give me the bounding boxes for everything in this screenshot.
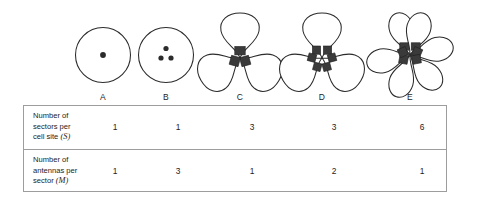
pattern-b-omni-circle (139, 28, 194, 83)
row-header-line-1: Number of (33, 111, 68, 120)
antenna-dot-b-1 (163, 46, 168, 51)
table-row: Number of antennas per sector (M) 1 3 1 … (24, 150, 446, 193)
pattern-e-six-sector (364, 9, 455, 100)
antenna-square-d-2a (327, 53, 337, 63)
row-header-sectors: Number of sectors per cell site (S) (33, 111, 111, 143)
antenna-dot-a-1 (100, 52, 106, 58)
antenna-square-c-3 (229, 55, 240, 66)
coverage-circle-b (139, 28, 194, 83)
cell-antennas-b: 3 (166, 166, 190, 176)
row-header-line-2: sectors per (33, 122, 71, 131)
cell-antennas-c: 1 (240, 166, 264, 176)
column-label-b: B (151, 92, 181, 102)
antenna-square-d-2b (322, 62, 332, 72)
row-header-line-3: cell site (33, 132, 58, 141)
antenna-square-d-1b (323, 46, 331, 54)
row-header-variable-m: (M) (56, 176, 69, 185)
antenna-dot-b-2 (158, 55, 163, 60)
antenna-square-c-2 (240, 55, 251, 66)
lobe-d-1 (303, 13, 342, 58)
pattern-c-three-sector (191, 13, 288, 97)
antenna-dot-b-3 (168, 55, 173, 60)
cell-sectors-e: 6 (410, 122, 434, 132)
antenna-square-d-3b (307, 53, 317, 63)
row-header-line-3: sector (33, 176, 54, 185)
cell-sectors-d: 3 (322, 122, 346, 132)
column-label-c: C (225, 92, 255, 102)
cell-sectors-b: 1 (166, 122, 190, 132)
antenna-square-d-1a (312, 46, 320, 54)
figure-root: A B C D E Number of sectors per cell sit… (0, 0, 477, 207)
table-row: Number of sectors per cell site (S) 1 1 … (24, 106, 446, 150)
column-label-a: A (88, 92, 118, 102)
pattern-d-three-sector-dual (273, 13, 370, 97)
row-header-line-1: Number of (33, 155, 68, 164)
antenna-square-d-3a (313, 62, 323, 72)
pattern-a-omni-circle (76, 28, 131, 83)
column-label-d: D (307, 92, 337, 102)
antenna-square-e-4 (411, 54, 421, 64)
cell-antennas-a: 1 (103, 166, 127, 176)
row-header-variable-s: (S) (60, 132, 70, 141)
configuration-table: Number of sectors per cell site (S) 1 1 … (23, 105, 447, 192)
cell-antennas-d: 2 (322, 166, 346, 176)
antenna-square-c-1 (235, 47, 245, 55)
cell-antennas-e: 1 (410, 166, 434, 176)
row-header-antennas: Number of antennas per sector (M) (33, 155, 111, 187)
cell-sectors-a: 1 (103, 122, 127, 132)
row-header-line-2: antennas per (33, 166, 77, 175)
cell-sectors-c: 3 (240, 122, 264, 132)
column-label-e: E (395, 92, 425, 102)
